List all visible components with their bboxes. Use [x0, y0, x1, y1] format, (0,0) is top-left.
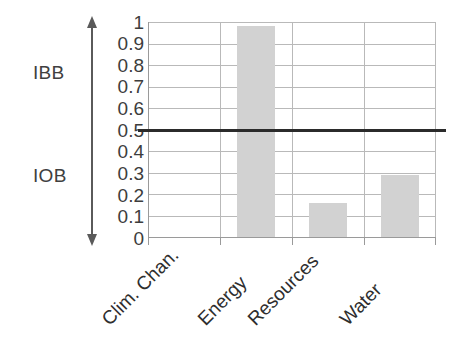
y-tick-label: 0.1 — [96, 207, 144, 226]
y-tick-label: 1 — [96, 13, 144, 32]
x-label-resources: Resources — [243, 250, 323, 330]
bar-resources — [309, 203, 347, 237]
y-tick-label: 0.9 — [96, 34, 144, 53]
y-tick-label: 0.6 — [96, 99, 144, 118]
y-tick-label: 0.7 — [96, 77, 144, 96]
y-tick-label: 0.5 — [96, 121, 144, 140]
threshold-line-0-5 — [138, 129, 446, 132]
annotation-label-ibb: IBB — [33, 62, 65, 84]
x-label-energy: Energy — [193, 272, 251, 330]
bar-chart-figure: IBB IOB 1 0.9 0.8 0.7 0.6 0.5 0.4 0.3 0.… — [0, 0, 453, 362]
y-tick-label: 0.8 — [96, 56, 144, 75]
x-tick-mark — [292, 238, 293, 245]
x-tick-mark — [220, 238, 221, 245]
plot-area — [148, 22, 436, 238]
bar-water — [381, 175, 419, 237]
y-tick-label: 0.2 — [96, 186, 144, 205]
annotation-label-iob: IOB — [33, 165, 67, 187]
y-axis-tick-labels: 1 0.9 0.8 0.7 0.6 0.5 0.4 0.3 0.2 0.1 0 — [96, 10, 144, 242]
x-axis-category-labels: Clim. Chan. Energy Resources Water — [0, 248, 453, 362]
y-tick-label: 0.4 — [96, 142, 144, 161]
x-label-clim-chan: Clim. Chan. — [97, 244, 183, 330]
x-label-water: Water — [335, 279, 386, 330]
x-tick-mark — [148, 238, 149, 245]
x-tick-mark — [364, 238, 365, 245]
bar-energy — [237, 26, 275, 237]
y-tick-label: 0 — [96, 229, 144, 248]
y-tick-label: 0.3 — [96, 164, 144, 183]
x-tick-mark — [435, 238, 436, 245]
